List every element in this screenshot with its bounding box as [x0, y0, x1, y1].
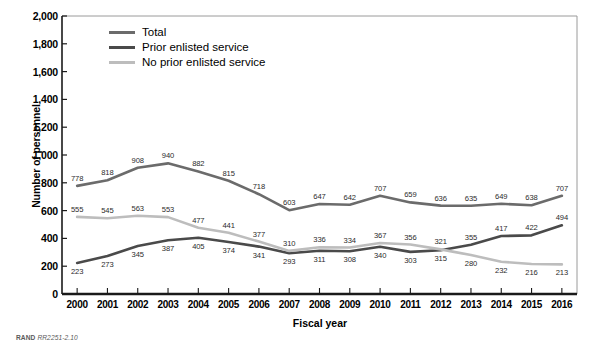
- point-label-no-prior: 356: [395, 234, 425, 242]
- source-id: RR2251-2.10: [37, 334, 77, 341]
- point-label-total: 642: [335, 194, 365, 202]
- point-label-total: 707: [365, 185, 395, 193]
- point-label-total: 908: [123, 157, 153, 165]
- point-label-prior: 417: [486, 225, 516, 233]
- source-note: RAND RR2251-2.10: [16, 334, 78, 341]
- legend-item: No prior enlisted service: [109, 55, 265, 70]
- legend-swatch-icon: [109, 31, 135, 34]
- point-label-total: 778: [62, 175, 92, 183]
- point-label-prior: 422: [517, 224, 547, 232]
- point-label-no-prior: 367: [365, 232, 395, 240]
- point-label-no-prior: 555: [62, 206, 92, 214]
- point-label-prior: 345: [123, 251, 153, 259]
- point-label-no-prior: 441: [214, 222, 244, 230]
- point-label-no-prior: 545: [92, 207, 122, 215]
- legend-item-label: Total: [142, 27, 166, 39]
- point-label-no-prior: 213: [547, 269, 577, 277]
- point-label-prior: 340: [365, 252, 395, 260]
- point-label-total: 636: [426, 195, 456, 203]
- point-label-total: 818: [92, 169, 122, 177]
- point-label-no-prior: 336: [305, 236, 335, 244]
- point-label-no-prior: 232: [486, 267, 516, 275]
- point-label-prior: 315: [426, 255, 456, 263]
- point-label-total: 603: [274, 199, 304, 207]
- legend-item: Total: [109, 25, 265, 40]
- point-label-no-prior: 377: [244, 231, 274, 239]
- legend-item: Prior enlisted service: [109, 40, 265, 55]
- point-label-no-prior: 310: [274, 240, 304, 248]
- point-label-total: 647: [305, 193, 335, 201]
- point-label-total: 649: [486, 193, 516, 201]
- point-label-total: 659: [395, 191, 425, 199]
- point-label-no-prior: 334: [335, 237, 365, 245]
- point-label-total: 815: [214, 170, 244, 178]
- point-label-prior: 494: [547, 214, 577, 222]
- point-label-no-prior: 280: [456, 260, 486, 268]
- point-label-prior: 303: [395, 257, 425, 265]
- point-label-prior: 273: [92, 261, 122, 269]
- point-label-prior: 311: [305, 256, 335, 264]
- point-label-prior: 341: [244, 252, 274, 260]
- point-label-no-prior: 321: [426, 238, 456, 246]
- point-label-no-prior: 216: [517, 269, 547, 277]
- point-label-prior: 293: [274, 258, 304, 266]
- point-label-no-prior: 553: [153, 206, 183, 214]
- point-label-total: 635: [456, 195, 486, 203]
- point-label-prior: 355: [456, 234, 486, 242]
- point-label-prior: 308: [335, 256, 365, 264]
- point-label-no-prior: 477: [183, 217, 213, 225]
- legend-swatch-icon: [109, 46, 135, 49]
- point-label-total: 882: [183, 160, 213, 168]
- point-label-prior: 223: [62, 268, 92, 276]
- point-label-prior: 374: [214, 247, 244, 255]
- point-label-total: 707: [547, 185, 577, 193]
- legend-item-label: No prior enlisted service: [142, 57, 265, 69]
- point-label-total: 718: [244, 183, 274, 191]
- legend-item-label: Prior enlisted service: [142, 42, 249, 54]
- chart-figure: Number of personnel 2,0001,8001,6001,400…: [0, 0, 599, 355]
- point-label-total: 638: [517, 194, 547, 202]
- legend-swatch-icon: [109, 61, 135, 64]
- point-label-total: 940: [153, 152, 183, 160]
- point-label-prior: 387: [153, 245, 183, 253]
- data-point-labels: 7788189089408828157186036476427076596366…: [0, 0, 599, 355]
- point-label-prior: 405: [183, 243, 213, 251]
- source-prefix: RAND: [16, 334, 35, 341]
- chart-legend: TotalPrior enlisted serviceNo prior enli…: [109, 25, 265, 70]
- point-label-no-prior: 563: [123, 205, 153, 213]
